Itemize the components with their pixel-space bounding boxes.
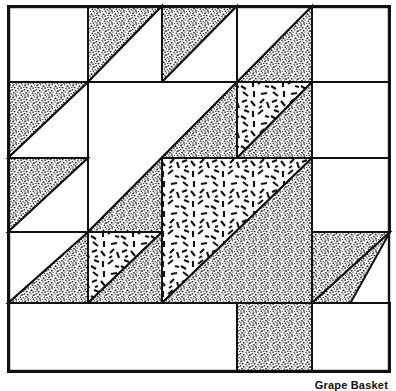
patch-bottom-left-plain — [8, 303, 237, 372]
patch-right-plain-mid — [312, 158, 390, 232]
figure-caption: Grape Basket — [315, 379, 388, 391]
patch-right-plain-upper — [312, 82, 390, 158]
patch-top-right-plain-square — [312, 6, 390, 82]
patch-bottom-right-plain — [312, 303, 390, 372]
patch-layer — [8, 6, 390, 372]
patch-top-left-plain-square — [8, 6, 88, 82]
